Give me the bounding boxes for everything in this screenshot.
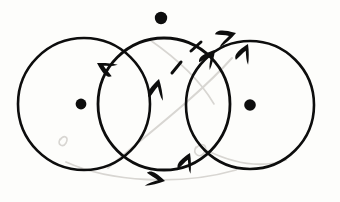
- top-dot: [155, 12, 167, 24]
- ghost-arc-upper: [150, 40, 214, 104]
- ghost-arc-lower: [66, 162, 236, 180]
- ghost-squiggle-left-icon: [59, 137, 67, 146]
- ghost-arc-right: [206, 150, 286, 164]
- diagram-svg: [0, 0, 340, 202]
- arrow-bottom-right-icon: [142, 170, 166, 192]
- left-center-dot: [76, 99, 87, 110]
- right-center-dot: [244, 99, 256, 111]
- arrow-right-up-icon: [234, 42, 258, 67]
- figure-canvas: [0, 0, 340, 202]
- dash-lower-segment: [172, 62, 181, 73]
- ghost-arc-diagonal: [108, 58, 232, 168]
- circles-layer: [18, 38, 314, 170]
- middle-circle: [98, 38, 230, 170]
